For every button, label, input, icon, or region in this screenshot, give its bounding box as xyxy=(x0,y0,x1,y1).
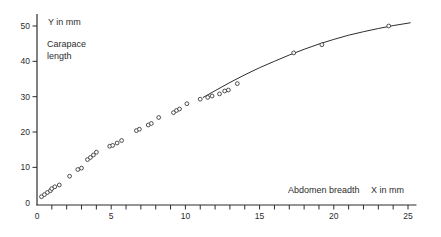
data-point xyxy=(95,150,99,154)
data-point xyxy=(206,96,210,100)
data-point xyxy=(111,144,115,148)
data-point xyxy=(185,102,189,106)
data-point xyxy=(53,185,57,189)
plot-layer xyxy=(40,23,411,199)
data-point xyxy=(57,183,61,187)
x-tick-label: 0 xyxy=(35,211,40,221)
scatter-plot-figure: 051015202501020304050 Y in mm Carapace l… xyxy=(0,0,441,237)
x-axis-unit-label: X in mm xyxy=(371,185,404,195)
x-tick-label: 10 xyxy=(181,211,191,221)
x-tick-label: 20 xyxy=(329,211,339,221)
data-point xyxy=(120,139,124,143)
data-point xyxy=(80,166,84,170)
data-point xyxy=(178,107,182,111)
data-point xyxy=(149,122,153,126)
y-tick-label: 20 xyxy=(21,127,31,137)
x-tick-label: 15 xyxy=(255,211,265,221)
x-axis-title: Abdomen breadth xyxy=(288,185,360,195)
data-point xyxy=(387,24,391,28)
data-point xyxy=(76,168,80,172)
data-point xyxy=(292,51,296,55)
data-point xyxy=(210,94,214,98)
data-point xyxy=(115,141,119,145)
y-tick-label: 30 xyxy=(21,92,31,102)
data-point xyxy=(198,97,202,101)
y-axis-unit-label: Y in mm xyxy=(48,17,81,27)
data-point xyxy=(235,82,239,86)
y-tick-label: 10 xyxy=(21,162,31,172)
fit-curve xyxy=(203,23,410,98)
chart-canvas: 051015202501020304050 Y in mm Carapace l… xyxy=(0,0,441,237)
y-axis-title-line2: length xyxy=(47,51,72,61)
y-tick-label: 40 xyxy=(21,56,31,66)
x-tick-label: 25 xyxy=(403,211,413,221)
y-axis-title-line1: Carapace xyxy=(47,39,86,49)
data-point xyxy=(218,92,222,96)
x-tick-label: 5 xyxy=(109,211,114,221)
data-point xyxy=(320,43,324,47)
data-point xyxy=(138,127,142,131)
data-point xyxy=(223,89,227,93)
data-point xyxy=(227,88,231,92)
y-tick-label: 50 xyxy=(21,21,31,31)
y-tick-label: 0 xyxy=(25,198,30,208)
data-point xyxy=(157,116,161,120)
data-point xyxy=(68,174,72,178)
